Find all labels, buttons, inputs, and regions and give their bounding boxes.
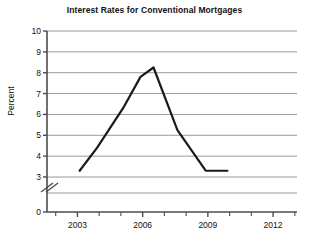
- plot-area: [0, 0, 309, 242]
- chart-container: Interest Rates for Conventional Mortgage…: [0, 0, 309, 242]
- y-tick-label: 8: [21, 68, 41, 78]
- y-tick-label: 6: [21, 109, 41, 119]
- x-tick-label: 2012: [253, 220, 293, 230]
- y-tick-label: 9: [21, 47, 41, 57]
- data-line-series: [80, 68, 228, 171]
- y-tick-label: 7: [21, 89, 41, 99]
- y-axis-break-mark: [40, 179, 58, 192]
- x-tick-label: 2003: [57, 220, 97, 230]
- chart-svg: [0, 0, 309, 242]
- y-tick-label-zero: 0: [21, 207, 41, 217]
- gridlines: [47, 31, 297, 193]
- y-tick-label: 5: [21, 130, 41, 140]
- y-tick-label: 10: [21, 26, 41, 36]
- axis-lines: [47, 31, 297, 212]
- y-tick-label: 3: [21, 172, 41, 182]
- y-tick-label: 4: [21, 151, 41, 161]
- x-tick-label: 2009: [188, 220, 228, 230]
- x-tick-label: 2006: [123, 220, 163, 230]
